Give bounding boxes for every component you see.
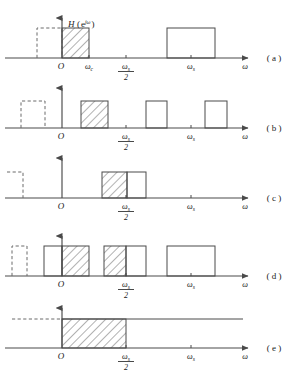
hatched-band [102,172,127,198]
omega-s-half-numerator: ωs [122,352,130,362]
omega-s-label: ωs [187,280,195,290]
omega-axis-label: ω [242,62,248,71]
origin-label: O [58,351,65,361]
origin-label: O [58,131,65,141]
figure-container: Oωcωs2ωsω( a )Oωs2ωsω( b )Oωs2ωsω( c )Oω… [0,0,299,376]
omega-s-half-numerator: ωs [122,202,130,212]
passband-band [167,246,215,276]
origin-label: O [58,201,65,211]
hatched-band [62,319,126,348]
omega-axis-label: ω [242,352,248,361]
origin-label: O [58,279,65,289]
frequency-response-figure: Oωcωs2ωsω( a )Oωs2ωsω( b )Oωs2ωsω( c )Oω… [0,0,299,376]
omega-s-half-denominator: 2 [124,73,128,82]
panel-tag-b: ( b ) [267,123,282,133]
omega-s-label: ωs [187,352,195,362]
omega-s-half-numerator: ωs [122,132,130,142]
hatched-band [62,246,89,276]
omega-axis-label: ω [242,132,248,141]
hatched-band [81,101,108,128]
panel-tag-e: ( e ) [267,343,282,353]
omega-s-label: ωs [187,62,195,72]
panel-tag-d: ( d ) [267,271,282,281]
panel-d: Oωs2ωsω( d ) [5,236,282,300]
omega-s-half-numerator: ωs [122,280,130,290]
mirror-image-band [12,246,27,276]
panel-b: Oωs2ωsω( b ) [5,88,282,152]
omega-s-label: ωs [187,202,195,212]
omega-axis-label: ω [242,280,248,289]
axis-title-group: H(ejω) [67,19,95,29]
passband-band [167,28,215,58]
hatched-band [104,246,126,276]
omega-s-half-denominator: 2 [124,143,128,152]
omega-s-label: ωs [187,132,195,142]
omega-s-half-numerator: ωs [122,62,130,72]
panel-a: Oωcωs2ωsω( a ) [5,18,281,82]
passband-band [127,172,146,198]
passband-band [126,246,146,276]
omega-s-half-denominator: 2 [124,363,128,372]
mirror-image-band [21,101,45,128]
panel-tag-a: ( a ) [267,53,282,63]
panel-c: Oωs2ωsω( c ) [5,158,281,222]
omega-axis-label: ω [242,202,248,211]
hatched-band [62,28,89,58]
omega-s-half-denominator: 2 [124,291,128,300]
axis-title: H(ejω) [67,19,95,29]
mirror-image-band [37,28,62,58]
omega-s-half-denominator: 2 [124,213,128,222]
passband-band [205,101,227,128]
panel-tag-c: ( c ) [267,193,282,203]
passband-band [146,101,167,128]
passband-band [44,246,62,276]
mirror-image-band [7,172,23,198]
panel-e: Oωs2ωsω( e ) [5,308,281,372]
omega-c-label: ωc [85,62,94,72]
origin-label: O [58,61,65,71]
